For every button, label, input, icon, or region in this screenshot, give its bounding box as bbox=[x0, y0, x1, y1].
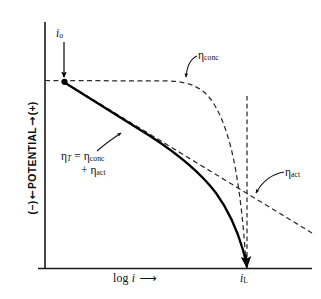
eta-total-plus: + bbox=[81, 164, 91, 176]
exchange-current-label: io bbox=[56, 27, 63, 40]
y-axis-label: (−)←POTENTIAL→(+) bbox=[27, 78, 39, 238]
eta-act-leader bbox=[256, 172, 284, 193]
eta-conc-subscript: conc bbox=[204, 53, 219, 62]
eta-conc-label: ηconc bbox=[198, 49, 219, 62]
eta-total-term1-subscript: conc bbox=[90, 154, 105, 163]
x-axis-label: log i⟶ bbox=[113, 272, 157, 285]
eta-total-term2-subscript: act bbox=[97, 169, 106, 178]
eta-total-line2: +ηact bbox=[61, 164, 106, 177]
x-axis-label-variable: i bbox=[132, 271, 135, 285]
exchange-current-dot bbox=[61, 79, 67, 85]
y-axis-arrow-up-icon: → bbox=[27, 115, 39, 127]
y-axis-arrow-down-icon: ← bbox=[27, 189, 39, 201]
figure-root: io iL ηconc ηact ηT=ηconc +ηact log i⟶ (… bbox=[0, 0, 321, 299]
iL-subscript: L bbox=[243, 276, 248, 285]
eta-total-line1: ηT=ηconc bbox=[61, 150, 105, 162]
y-axis-label-text: POTENTIAL bbox=[27, 127, 38, 189]
eta-total-equals: = bbox=[71, 150, 84, 162]
i0-subscript: o bbox=[59, 31, 63, 40]
y-axis-negative-sign: (−) bbox=[27, 201, 38, 215]
curve-end-arrow bbox=[246, 256, 247, 267]
polarization-curve-svg bbox=[0, 0, 321, 299]
eta-total-label: ηT=ηconc +ηact bbox=[61, 150, 106, 178]
x-axis-label-text: log bbox=[113, 271, 129, 285]
y-axis-positive-sign: (+) bbox=[27, 101, 38, 115]
eta-act-subscript: act bbox=[291, 170, 300, 179]
limiting-current-label: iL bbox=[240, 272, 248, 285]
eta-total-leader bbox=[97, 133, 121, 151]
eta-conc-leader bbox=[186, 56, 197, 77]
x-axis-arrow-icon: ⟶ bbox=[139, 272, 156, 285]
eta-act-label: ηact bbox=[285, 166, 300, 179]
